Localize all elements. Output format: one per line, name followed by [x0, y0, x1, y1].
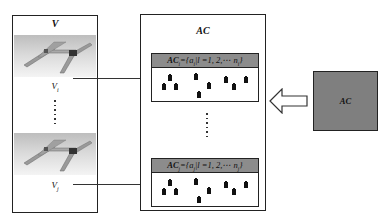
agent-icon: [244, 181, 248, 188]
agent-cluster-source-block: AC: [313, 71, 378, 131]
agent-icon: [168, 179, 172, 186]
agent-icon: [244, 76, 248, 83]
agent-icon: [197, 91, 201, 98]
agent-subset-j: ACj={aj|l =1, 2,⋯ nj}: [151, 158, 259, 207]
agent-cluster-box: AC ACi={ai|l =1, 2,⋯ ni} ACj={aj|l =1, 2…: [140, 14, 266, 211]
agent-icon: [197, 196, 201, 203]
robot-image-j: [14, 133, 96, 175]
subset-formula-j: ACj={aj|l =1, 2,⋯ nj}: [152, 159, 258, 173]
agent-icon: [224, 76, 228, 83]
vehicle-label-j: Vj: [13, 180, 97, 192]
agent-icon: [162, 83, 166, 90]
hollow-left-arrow-icon: [269, 88, 309, 114]
agent-icon: [224, 181, 228, 188]
agent-icon: [194, 178, 198, 185]
agent-icon: [194, 73, 198, 80]
agent-icon: [174, 83, 178, 90]
agent-icon: [168, 74, 172, 81]
agent-icon: [232, 83, 236, 90]
agent-icon: [174, 188, 178, 195]
agent-icon: [232, 188, 236, 195]
vehicle-ellipsis: [54, 100, 56, 127]
vehicle-set-title: V: [13, 18, 97, 29]
agent-icon: [207, 82, 211, 89]
source-block-label: AC: [314, 96, 377, 106]
agent-icon: [162, 188, 166, 195]
agent-cluster-title: AC: [141, 25, 265, 36]
gantry-robot-icon: [14, 35, 96, 77]
vehicle-label-i: Vi: [13, 81, 97, 93]
subset-formula-i: ACi={ai|l =1, 2,⋯ ni}: [152, 54, 258, 68]
subset-ellipsis: [206, 113, 208, 140]
agent-icon: [207, 187, 211, 194]
robot-image-i: [14, 35, 96, 77]
agent-subset-i: ACi={ai|l =1, 2,⋯ ni}: [151, 53, 259, 102]
gantry-robot-icon: [14, 133, 96, 175]
